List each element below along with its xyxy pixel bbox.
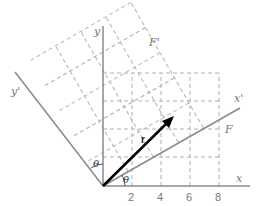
theta-label-y: θ <box>93 158 99 169</box>
x-tick-2: 2 <box>128 191 134 203</box>
rotation-diagram: y x x' y' F F' r θ θ 2 4 6 8 <box>0 0 256 206</box>
y-axis-label: y <box>93 25 101 38</box>
theta-label-x: θ <box>123 174 129 185</box>
vector-r-label: r <box>141 134 145 145</box>
x-tick-8: 8 <box>215 191 221 203</box>
y-prime-label: y' <box>10 85 20 98</box>
frame-f-label: F <box>224 123 233 136</box>
y-prime-axis <box>15 72 103 186</box>
x-prime-label: x' <box>234 92 243 105</box>
frame-f-prime-label: F' <box>148 36 160 49</box>
x-tick-6: 6 <box>186 191 192 203</box>
grid-f-prime <box>31 2 204 186</box>
x-tick-4: 4 <box>157 191 163 203</box>
x-axis-label: x <box>236 172 243 185</box>
